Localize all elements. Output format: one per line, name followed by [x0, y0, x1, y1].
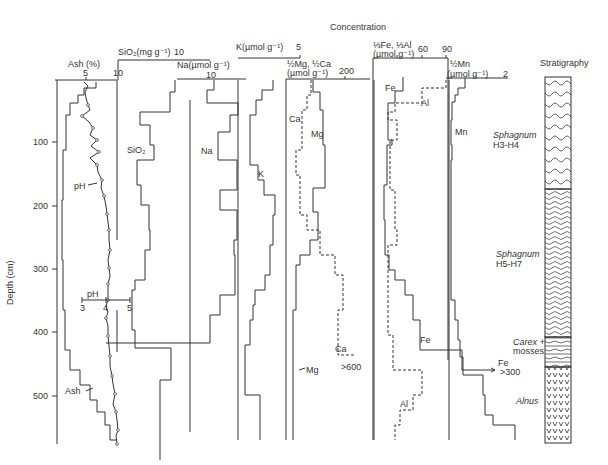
fe-series [384, 77, 485, 370]
svg-text:pH: pH [87, 289, 99, 299]
tick-300: 300 [33, 264, 48, 274]
chart-title: Concentration [330, 22, 386, 32]
svg-text:Ca: Ca [335, 344, 347, 354]
ca-series [296, 80, 355, 355]
svg-text:SiO₂: SiO₂ [127, 145, 146, 155]
svg-text:SiO₂(mg g⁻¹): SiO₂(mg g⁻¹) [118, 47, 171, 57]
svg-text:Na: Na [201, 146, 213, 156]
na-panel: Na(µmol g⁻¹) 10 Na [106, 60, 246, 440]
svg-text:Na(µmol g⁻¹): Na(µmol g⁻¹) [177, 60, 230, 70]
svg-text:Mg: Mg [311, 129, 324, 139]
svg-text:60: 60 [418, 44, 428, 54]
sio2-panel: SiO₂(mg g⁻¹) 10 SiO₂ [118, 47, 210, 460]
svg-text:K(µmol g⁻¹): K(µmol g⁻¹) [236, 42, 283, 52]
k-panel: K(µmol g⁻¹) 5 K [236, 42, 301, 440]
svg-text:>600: >600 [341, 362, 361, 372]
ph-series [82, 82, 118, 444]
ph-label-1: pH [74, 181, 86, 191]
svg-text:Ca: Ca [289, 114, 301, 124]
svg-text:Alnus: Alnus [515, 396, 539, 406]
svg-text:H3-H4: H3-H4 [493, 140, 519, 150]
tick-100: 100 [33, 137, 48, 147]
svg-text:Sphagnum: Sphagnum [493, 130, 537, 140]
tick-200: 200 [33, 201, 48, 211]
svg-text:mosses: mosses [513, 346, 545, 356]
mgca-panel: ½Mg, ½Ca (µmol g⁻¹) 200 Ca Mg Ca >600 Mg [286, 59, 374, 440]
svg-text:>300: >300 [500, 367, 520, 377]
svg-text:H5-H7: H5-H7 [496, 259, 522, 269]
y-axis-label: Depth (cm) [5, 260, 15, 305]
geochemistry-depth-profile: Concentration 100 200 300 400 500 Depth … [0, 0, 608, 465]
tick-400: 400 [33, 327, 48, 337]
svg-text:Mn: Mn [455, 127, 468, 137]
depth-axis: 100 200 300 400 500 Depth (cm) [5, 80, 57, 444]
svg-text:(µmol g⁻¹): (µmol g⁻¹) [287, 68, 328, 78]
stratigraphy-column: Stratigraphy Sphagnum H3-H4 Sphagnum H5-… [493, 58, 589, 443]
svg-text:Fe: Fe [420, 335, 431, 345]
svg-text:10: 10 [174, 47, 184, 57]
svg-text:3: 3 [80, 303, 85, 313]
svg-text:5: 5 [296, 42, 301, 52]
svg-text:Sphagnum: Sphagnum [496, 249, 540, 259]
tick-500: 500 [33, 391, 48, 401]
svg-text:5: 5 [127, 303, 132, 313]
al-series [388, 80, 446, 440]
svg-text:Fe: Fe [385, 83, 396, 93]
svg-text:K: K [258, 169, 264, 179]
svg-text:Al: Al [421, 98, 429, 108]
feal-panel: ⅓Fe, ⅓Al (µmol g⁻¹) 60 90 Fe Al Fe Al [373, 40, 485, 440]
ash-panel: Ash (%) 5 10 pH pH 3 4 5 Ash [55, 59, 132, 445]
svg-text:90: 90 [442, 44, 452, 54]
svg-text:Stratigraphy: Stratigraphy [540, 58, 589, 68]
svg-text:4: 4 [103, 303, 108, 313]
svg-text:½Mn: ½Mn [450, 59, 470, 69]
ash-inline-label: Ash [65, 386, 81, 396]
svg-text:Al: Al [400, 399, 408, 409]
svg-text:5: 5 [83, 68, 88, 78]
svg-text:200: 200 [339, 66, 354, 76]
svg-text:Mg: Mg [306, 365, 319, 375]
